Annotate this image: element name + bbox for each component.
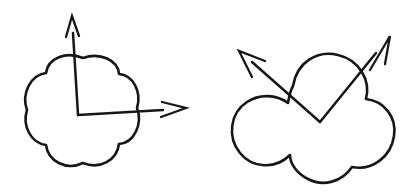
right-panel <box>232 36 394 183</box>
horizontal-right-arrow-head-icon <box>161 102 186 117</box>
vertical-up-vector-shaft <box>73 33 78 115</box>
figure-svg: Two hand-drawn clover outlines with vect… <box>0 0 410 192</box>
left-panel <box>25 16 186 166</box>
horizontal-right-vector-shaft <box>78 110 163 115</box>
upper-left-vector-shaft <box>252 62 320 122</box>
three-lobed-clover-outline <box>232 54 394 183</box>
figure-canvas: Two hand-drawn clover outlines with vect… <box>0 0 410 192</box>
four-lobed-clover-outline <box>25 55 139 166</box>
upper-left-arrow-head-icon <box>239 51 265 77</box>
upper-right-arrow-head-icon <box>370 36 390 70</box>
